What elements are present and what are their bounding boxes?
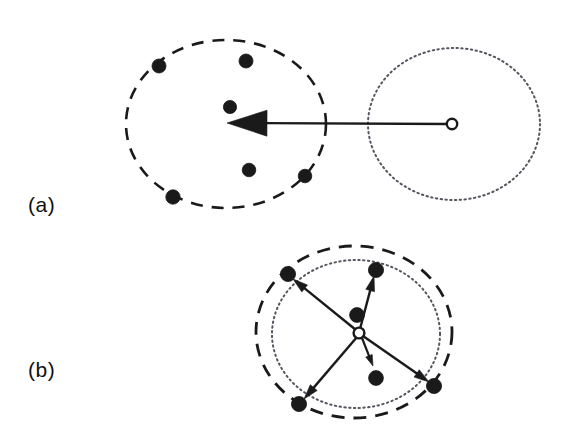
particle-1 — [152, 59, 166, 73]
particle-6 — [426, 378, 441, 393]
velocity-arrow-upper-right-head — [366, 276, 375, 292]
velocity-arrow-lower-right-head — [414, 370, 429, 382]
velocity-arrow-upper-left-shaft — [303, 287, 356, 330]
panel-label-b: (b) — [28, 358, 55, 382]
particle-2 — [368, 262, 383, 277]
particle-1 — [280, 266, 295, 281]
figure-canvas — [0, 0, 566, 442]
reference-point-open-circle — [447, 119, 457, 129]
panel-a — [126, 40, 540, 208]
particle-3 — [350, 308, 365, 323]
figure-root: (a) (b) — [0, 0, 566, 442]
particle-3 — [223, 100, 236, 113]
particle-6 — [166, 190, 180, 204]
velocity-arrow-short-down-head — [366, 354, 373, 366]
particle-4 — [369, 371, 384, 386]
velocity-arrow-upper-left — [293, 279, 356, 330]
velocity-arrow-main-head — [227, 110, 267, 136]
panel-b — [256, 246, 452, 418]
particle-5 — [298, 169, 312, 183]
particle-5 — [291, 396, 306, 411]
velocity-arrow-lower-left-shaft — [312, 337, 357, 389]
reference-point-open-circle — [354, 328, 365, 339]
velocity-arrow-upper-right — [360, 276, 375, 329]
velocity-arrow-main-shaft — [265, 123, 447, 124]
particle-4 — [242, 163, 256, 177]
velocity-arrow-lower-left — [304, 337, 357, 399]
panel-label-a: (a) — [28, 193, 55, 217]
particle-2 — [239, 54, 253, 68]
velocity-arrow-main — [227, 110, 447, 136]
